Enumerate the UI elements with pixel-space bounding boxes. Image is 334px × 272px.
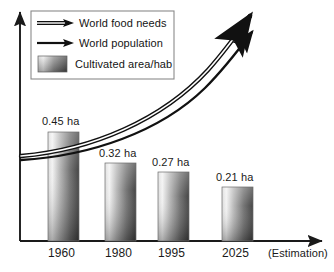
bars-group	[48, 132, 253, 241]
legend-marker-gradient-swatch-icon	[38, 56, 67, 72]
bar-value-label-2025: 0.21 ha	[216, 171, 253, 183]
legend-label-world-population: World population	[79, 37, 163, 49]
bar-1980	[105, 163, 136, 241]
legend-label-world-food-needs: World food needs	[79, 17, 167, 29]
chart-canvas	[0, 0, 334, 272]
chart-container: World food needs World population Cultiv…	[0, 0, 334, 272]
x-tick-label-1995: 1995	[158, 246, 185, 260]
x-tick-label-2025: 2025	[222, 246, 249, 260]
bar-value-label-1980: 0.32 ha	[99, 147, 136, 159]
x-tick-label-1960: 1960	[48, 246, 75, 260]
bar-2025	[222, 187, 253, 241]
bar-value-label-1960: 0.45 ha	[42, 115, 79, 127]
legend-label-cultivated-area: Cultivated area/hab	[75, 58, 172, 70]
x-axis-note-estimation: (Estimation)	[268, 247, 328, 259]
bar-1995	[158, 172, 189, 241]
x-tick-label-1980: 1980	[105, 246, 132, 260]
bar-value-label-1995: 0.27 ha	[152, 156, 189, 168]
